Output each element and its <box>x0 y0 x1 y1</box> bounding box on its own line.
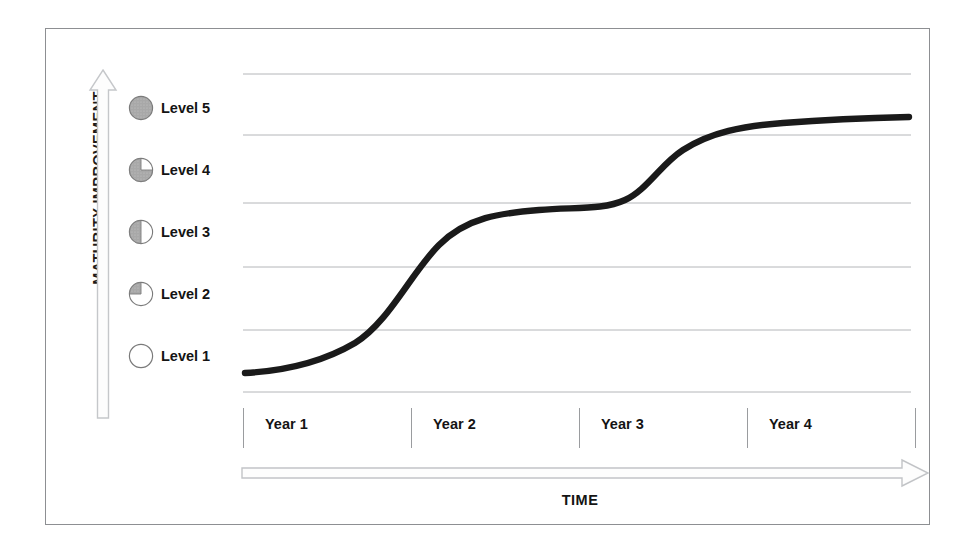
pie-quarter-icon <box>128 281 154 307</box>
pie-half-icon <box>128 219 154 245</box>
year-tick-separator <box>579 408 580 448</box>
year-label-2: Year 2 <box>433 416 476 432</box>
x-axis-title: TIME <box>240 492 920 508</box>
timeline-cell-year-4: Year 4 <box>747 402 915 450</box>
legend-label-level-1: Level 1 <box>161 349 210 364</box>
maturity-curve-line <box>245 117 909 373</box>
legend-label-level-2: Level 2 <box>161 287 210 302</box>
timeline-year-band: Year 1 Year 2 Year 3 Year 4 <box>243 402 915 450</box>
time-right-arrow-icon <box>240 458 930 488</box>
legend-label-level-4: Level 4 <box>161 163 210 178</box>
year-tick-separator-end <box>915 408 916 448</box>
y-axis-group: MATURITY IMPROVEMENT <box>60 60 120 420</box>
pie-full-icon <box>128 95 154 121</box>
maturity-up-arrow-icon <box>88 68 118 420</box>
legend-item-level-1: Level 1 <box>128 340 210 372</box>
timeline-cell-year-1: Year 1 <box>243 402 411 450</box>
year-label-3: Year 3 <box>601 416 644 432</box>
pie-empty-icon <box>128 343 154 369</box>
pie-three-quarter-icon <box>128 157 154 183</box>
legend-item-level-5: Level 5 <box>128 92 210 124</box>
timeline-cell-year-3: Year 3 <box>579 402 747 450</box>
year-tick-separator <box>747 408 748 448</box>
chart-canvas: MATURITY IMPROVEMENT Level 5 <box>0 0 974 552</box>
legend-label-level-3: Level 3 <box>161 225 210 240</box>
year-label-1: Year 1 <box>265 416 308 432</box>
year-label-4: Year 4 <box>769 416 812 432</box>
timeline-cell-year-2: Year 2 <box>411 402 579 450</box>
year-tick-separator <box>243 408 244 448</box>
plot-area <box>243 60 911 400</box>
legend-item-level-3: Level 3 <box>128 216 210 248</box>
legend-item-level-2: Level 2 <box>128 278 210 310</box>
legend-label-level-5: Level 5 <box>161 101 210 116</box>
legend-item-level-4: Level 4 <box>128 154 210 186</box>
maturity-curve-plot <box>243 60 911 400</box>
year-tick-separator <box>411 408 412 448</box>
